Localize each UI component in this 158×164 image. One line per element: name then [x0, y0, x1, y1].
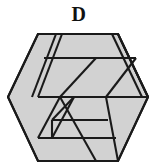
hexagon-spiral-figure — [0, 0, 158, 164]
figure-panel: D — [0, 0, 158, 164]
